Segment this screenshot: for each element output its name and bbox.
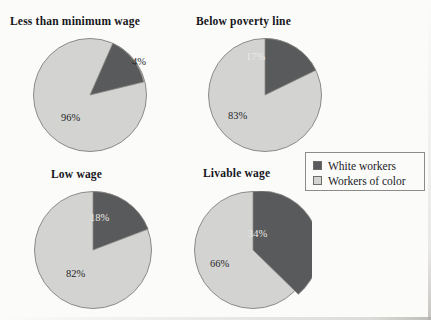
pie-label-low-wage-color: 82% — [66, 268, 85, 279]
legend-label-workers-of-color: Workers of color — [328, 175, 406, 187]
chart-legend: White workers Workers of color — [305, 152, 425, 191]
dark-swatch-icon — [313, 161, 322, 170]
pie-label-below-poverty-line-white: 17% — [246, 51, 265, 62]
pie-chart-less-than-minimum-wage — [33, 38, 147, 152]
pie-title-below-poverty-line: Below poverty line — [196, 15, 291, 27]
pie-label-livable-wage-color: 66% — [210, 258, 229, 269]
pie-chart-figure: Less than minimum wage 4% 96% Below pove… — [0, 0, 431, 320]
light-swatch-icon — [313, 176, 322, 185]
pie-chart-low-wage — [34, 191, 152, 309]
pie-title-less-than-minimum-wage: Less than minimum wage — [10, 15, 140, 27]
pie-label-less-than-minimum-wage-white: 4% — [132, 56, 146, 67]
pie-chart-livable-wage — [194, 191, 312, 309]
pie-title-livable-wage: Livable wage — [203, 167, 270, 179]
legend-item-workers-of-color: Workers of color — [313, 173, 416, 188]
pie-label-below-poverty-line-color: 83% — [228, 110, 247, 121]
pie-label-less-than-minimum-wage-color: 96% — [61, 112, 80, 123]
pie-title-low-wage: Low wage — [51, 168, 102, 180]
legend-label-white-workers: White workers — [328, 160, 396, 172]
pie-label-livable-wage-white: 34% — [248, 228, 267, 239]
pie-label-low-wage-white: 18% — [90, 212, 109, 223]
legend-item-white-workers: White workers — [313, 158, 416, 173]
